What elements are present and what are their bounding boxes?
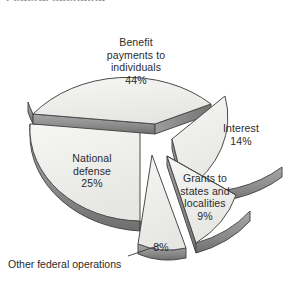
pie-slice-benefit-payments (28, 77, 211, 134)
pie-chart-graphic (0, 0, 302, 292)
pie-chart-figure: Federal spending (0, 0, 302, 292)
pie-slice-national-defense (30, 124, 140, 231)
slice-label-other-federal-operations-name: Other federal operations (8, 258, 121, 271)
